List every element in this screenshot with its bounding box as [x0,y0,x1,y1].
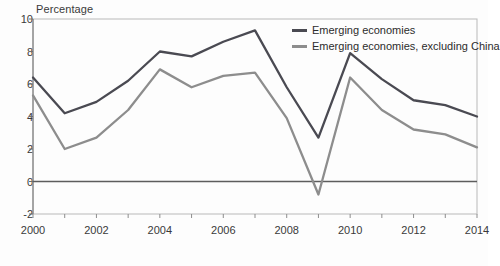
legend-item-emerging-economies-excluding-china: Emerging economies, excluding China [292,38,500,54]
series-line-1 [33,69,477,194]
legend-label-series-0: Emerging economies [312,24,415,36]
legend-item-emerging-economies: Emerging economies [292,22,500,38]
data-series-group [33,30,477,194]
chart-legend: Emerging economies Emerging economies, e… [292,22,500,54]
legend-swatch-icon-series-1 [292,45,307,48]
legend-swatch-icon-series-0 [292,29,307,32]
legend-label-series-1: Emerging economies, excluding China [312,40,500,52]
